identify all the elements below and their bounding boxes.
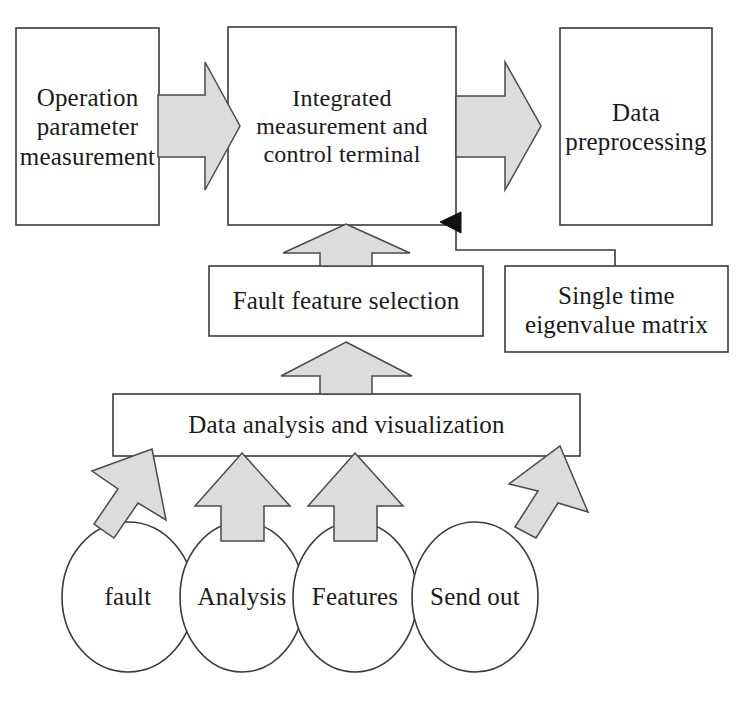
- node-operation-parameter-measurement[interactable]: [16, 28, 159, 225]
- node-send-out[interactable]: [412, 522, 538, 672]
- node-single-time-eigenvalue-matrix[interactable]: [505, 266, 728, 352]
- connector-sendout-to-analysis-arrow: [509, 446, 588, 538]
- node-data-preprocessing[interactable]: [560, 28, 712, 225]
- connector-fault-feature-to-terminal-arrow: [283, 224, 410, 266]
- flowchart-canvas: Operation parameter measurement Integrat…: [0, 0, 748, 703]
- connector-terminal-to-preprocessing-arrow: [456, 62, 541, 190]
- node-analysis[interactable]: [180, 522, 304, 672]
- connector-analysis-node-to-analysis-arrow: [195, 453, 290, 541]
- node-fault-feature-selection[interactable]: [209, 266, 483, 336]
- connector-eigenvalue-to-terminal-line: [456, 222, 615, 266]
- connector-analysis-to-fault-feature-arrow: [281, 342, 412, 394]
- connector-features-to-analysis-arrow: [308, 453, 403, 541]
- node-fault[interactable]: [62, 522, 194, 672]
- node-data-analysis-visualization[interactable]: [113, 394, 580, 456]
- flowchart-shapes-layer: [0, 0, 748, 703]
- node-integrated-measurement-control-terminal[interactable]: [228, 27, 456, 225]
- node-features[interactable]: [293, 522, 417, 672]
